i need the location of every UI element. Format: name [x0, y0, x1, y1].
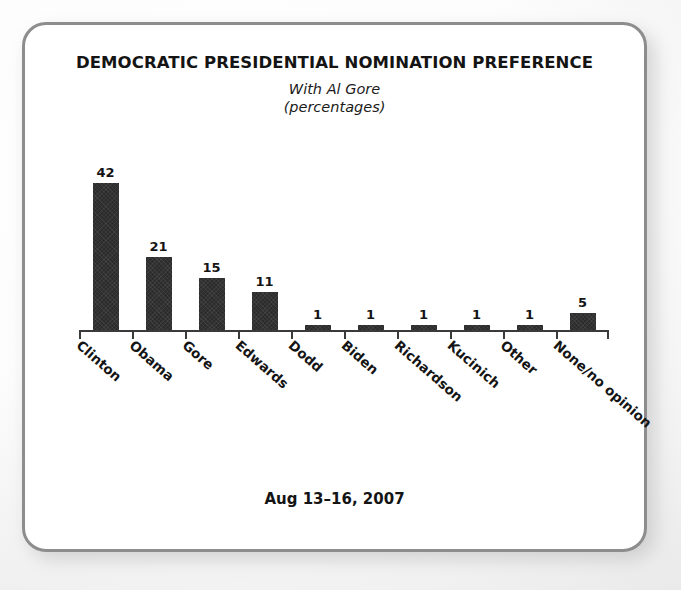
bar-slot: 1	[450, 165, 503, 330]
bar-slot: 21	[132, 165, 185, 330]
category-label: None/no opinion	[550, 337, 654, 431]
bar-slot: 11	[238, 165, 291, 330]
bar-rect	[146, 257, 172, 331]
bar-value-label: 1	[472, 308, 481, 321]
bar-value-label: 15	[202, 261, 220, 274]
chart-subtitle: With Al Gore	[25, 80, 644, 98]
category-label: Obama	[126, 337, 177, 384]
bar-value-label: 1	[366, 308, 375, 321]
category-label: Clinton	[73, 337, 124, 385]
bar-value-label: 42	[96, 166, 114, 179]
bar-slot: 15	[185, 165, 238, 330]
chart-card: DEMOCRATIC PRESIDENTIAL NOMINATION PREFE…	[22, 22, 647, 552]
bar-slot: 5	[556, 165, 609, 330]
chart-units-note: (percentages)	[25, 98, 644, 116]
category-label: Other	[497, 337, 540, 378]
chart-page: DEMOCRATIC PRESIDENTIAL NOMINATION PREFE…	[0, 0, 681, 590]
category-label: Dodd	[285, 337, 326, 375]
category-label: Edwards	[232, 337, 291, 392]
bar-slot: 42	[79, 165, 132, 330]
bar-rect	[252, 292, 278, 331]
bar-value-label: 5	[578, 296, 587, 309]
bar-value-label: 1	[419, 308, 428, 321]
bar-rect	[93, 183, 119, 330]
bar-slot: 1	[503, 165, 556, 330]
bar-rect	[199, 278, 225, 331]
chart-footer-date: Aug 13–16, 2007	[25, 490, 644, 508]
bar-value-label: 1	[313, 308, 322, 321]
category-label: Gore	[179, 337, 217, 373]
bar-slot: 1	[344, 165, 397, 330]
x-axis-category-labels: ClintonObamaGoreEdwardsDoddBidenRichards…	[79, 337, 609, 487]
chart-title: DEMOCRATIC PRESIDENTIAL NOMINATION PREFE…	[25, 53, 644, 73]
bar-slot: 1	[291, 165, 344, 330]
chart-heading: DEMOCRATIC PRESIDENTIAL NOMINATION PREFE…	[25, 53, 644, 116]
bar-rect	[570, 313, 596, 331]
bar-series: 42211511111115	[79, 165, 609, 330]
bar-value-label: 11	[255, 275, 273, 288]
bar-value-label: 1	[525, 308, 534, 321]
bar-value-label: 21	[149, 240, 167, 253]
plot-area: 42211511111115	[79, 165, 609, 330]
category-label: Biden	[338, 337, 381, 378]
bar-slot: 1	[397, 165, 450, 330]
